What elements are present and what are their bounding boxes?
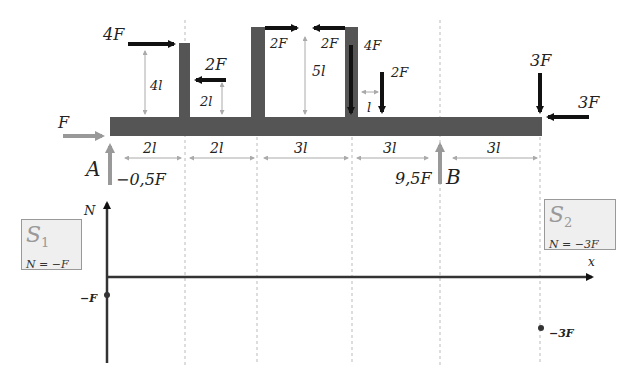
force-label-2f-post1: 2F	[204, 55, 227, 74]
section-box-s2: S2 N = −3F	[544, 199, 616, 250]
guide-lines	[185, 20, 540, 365]
offset-label-l: l	[367, 100, 371, 115]
force-label-f: F	[57, 113, 70, 132]
force-label-2f-post3: 2F	[320, 36, 339, 51]
height-label-2l: 2l	[199, 94, 212, 109]
support-b-label: B	[445, 165, 461, 189]
point-minus-f	[104, 292, 110, 298]
section-title-s2: S2	[549, 204, 611, 234]
n-axes	[107, 203, 592, 363]
value-minus-f: −F	[80, 292, 98, 305]
span-label-5: 3l	[487, 140, 500, 156]
section-title-s1: S1	[26, 224, 77, 254]
span-label-2: 2l	[209, 140, 223, 156]
span-label-4: 3l	[383, 140, 396, 156]
value-minus-3f: −3F	[549, 327, 575, 340]
force-label-3f-left: 3F	[578, 93, 600, 112]
beam-diagram: 4F 2F 2F 2F 4F 2F 3F 3F F 4l 2l 5l l 2l …	[0, 0, 635, 382]
force-label-2f-down: 2F	[390, 65, 409, 80]
x-axis-label: x	[588, 255, 595, 269]
height-label-5l: 5l	[312, 63, 325, 79]
force-label-4f-left: 4F	[102, 25, 125, 44]
height-label-4l: 4l	[149, 78, 162, 93]
span-label-1: 2l	[142, 140, 156, 156]
support-a-reaction: −0,5F	[116, 170, 167, 189]
section-box-s1: S1 N = −F	[21, 219, 82, 270]
support-a-label: A	[84, 157, 100, 181]
support-b-reaction: 9,5F	[395, 169, 432, 188]
force-label-3f-down: 3F	[530, 51, 552, 70]
force-label-4f-down: 4F	[363, 38, 382, 53]
span-label-3: 3l	[294, 140, 307, 156]
point-minus-3f	[538, 325, 544, 331]
section-eq-s1: N = −F	[26, 258, 77, 271]
force-label-2f-post2: 2F	[269, 36, 288, 51]
section-eq-s2: N = −3F	[549, 238, 611, 251]
n-axis-label: N	[83, 203, 96, 218]
force-arrows	[128, 28, 589, 117]
